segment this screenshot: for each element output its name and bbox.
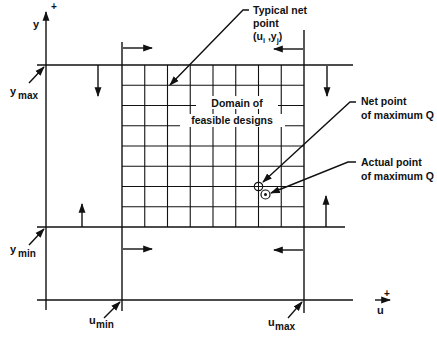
diagram-canvas: Domain of feasible designs y + + u y max… xyxy=(0,0,437,341)
net-point-max-q-line2: of maximum Q xyxy=(361,109,434,121)
u-min-label-base: u xyxy=(89,314,96,326)
typical-net-point-coords: (ui ,yj) xyxy=(253,30,282,45)
feasible-design-domain-diagram: Domain of feasible designs y + + u y max… xyxy=(0,0,437,341)
domain-label-line1: Domain of xyxy=(211,97,263,109)
y-axis-label: y xyxy=(33,18,40,30)
actual-point-max-q-annotation: Actual point of maximum Q xyxy=(271,156,434,193)
y-max-leader-arrow xyxy=(29,67,44,83)
typical-net-point-line1: Typical net xyxy=(253,4,308,16)
u-min-label: u min xyxy=(89,302,120,330)
y-min-label: y min xyxy=(10,229,44,259)
actual-point-max-q-marker xyxy=(261,190,270,199)
u-max-label-sub: max xyxy=(275,321,295,332)
u-axis-label: u xyxy=(377,304,384,316)
y-min-label-sub: min xyxy=(18,248,36,259)
net-point-max-q-line1: Net point xyxy=(361,95,407,107)
domain-label-line2: feasible designs xyxy=(191,114,273,126)
typical-net-point-leader-arrow xyxy=(170,10,249,85)
net-point-max-q-marker xyxy=(254,182,262,190)
typical-net-point-line2: point xyxy=(253,17,279,29)
y-max-label: y max xyxy=(10,67,44,101)
net-point-max-q-annotation: Net point of maximum Q xyxy=(263,95,434,182)
actual-point-max-q-line2: of maximum Q xyxy=(361,170,434,182)
u-max-label-base: u xyxy=(268,316,275,328)
y-min-leader-arrow xyxy=(29,229,44,245)
u-min-label-sub: min xyxy=(96,319,114,330)
u-max-label: u max xyxy=(268,302,302,332)
actual-point-max-q-line1: Actual point xyxy=(361,156,422,168)
u-min-leader-arrow xyxy=(104,302,120,318)
y-min-label-base: y xyxy=(10,243,17,255)
design-grid xyxy=(122,65,304,227)
u-max-leader-arrow xyxy=(288,302,302,318)
y-max-label-base: y xyxy=(10,85,17,97)
u-axis-plus: + xyxy=(384,288,390,299)
y-axis-plus: + xyxy=(51,1,57,12)
y-max-label-sub: max xyxy=(18,90,38,101)
